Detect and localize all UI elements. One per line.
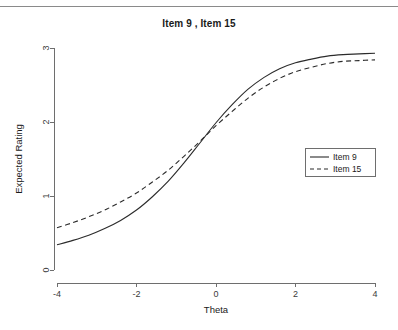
axes-group: 0123-4-2024ThetaExpected Rating — [13, 45, 378, 315]
legend-label-item-15: Item 15 — [333, 164, 362, 174]
y-tick-label: 3 — [41, 45, 51, 50]
x-axis-title: Theta — [204, 304, 229, 315]
x-tick-label: 0 — [213, 289, 218, 299]
x-tick-label: 4 — [372, 289, 377, 299]
x-tick-label: 2 — [293, 289, 298, 299]
y-tick-label: 0 — [41, 267, 51, 272]
x-tick-label: -4 — [53, 289, 61, 299]
x-tick-label: -2 — [132, 289, 140, 299]
legend-group: Item 9Item 15 — [305, 148, 375, 176]
expected-rating-plot: 0123-4-2024ThetaExpected Rating Item 9It… — [0, 0, 398, 330]
series-line-item-15 — [57, 60, 375, 228]
legend-label-item-9: Item 9 — [333, 152, 357, 162]
y-tick-label: 2 — [41, 119, 51, 124]
y-axis-title: Expected Rating — [13, 124, 24, 194]
figure-canvas: Item 9 , Item 15 0123-4-2024ThetaExpecte… — [0, 0, 398, 330]
y-tick-label: 1 — [41, 193, 51, 198]
